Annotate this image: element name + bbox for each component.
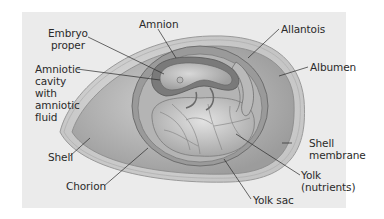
label-chorion: Chorion xyxy=(66,180,106,192)
label-amnion: Amnion xyxy=(139,18,178,30)
label-amniotic-cavity: Amniotic cavity with amniotic fluid xyxy=(35,63,80,123)
label-shell-membrane: Shell membrane xyxy=(309,137,366,161)
label-embryo-proper: Embryo proper xyxy=(48,27,88,51)
label-albumen: Albumen xyxy=(310,61,356,73)
label-yolk-sac: Yolk sac xyxy=(253,194,294,206)
label-allantois: Allantois xyxy=(281,23,325,35)
label-shell: Shell xyxy=(48,151,73,163)
label-yolk: Yolk (nutrients) xyxy=(301,169,355,193)
